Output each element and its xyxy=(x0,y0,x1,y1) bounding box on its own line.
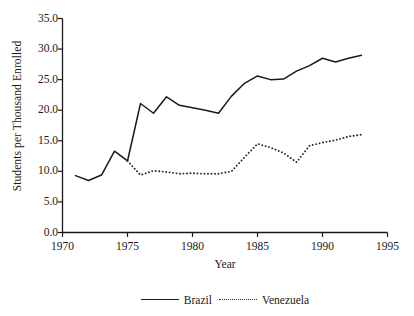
x-axis-title: Year xyxy=(62,258,388,270)
legend-label: Venezuela xyxy=(262,294,309,306)
legend-entry-brazil: Brazil xyxy=(141,294,212,306)
legend-swatch-solid-icon xyxy=(141,296,179,304)
chart-legend: BrazilVenezuela xyxy=(62,290,388,310)
chart-figure: Students per Thousand Enrolled 0.05.010.… xyxy=(0,0,414,316)
series-line-brazil xyxy=(76,55,362,180)
legend-label: Brazil xyxy=(184,294,212,306)
legend-swatch-dotted-icon xyxy=(219,296,257,304)
axis-spines xyxy=(63,19,388,233)
legend-entry-venezuela: Venezuela xyxy=(219,294,309,306)
series-line-venezuela xyxy=(128,135,362,175)
